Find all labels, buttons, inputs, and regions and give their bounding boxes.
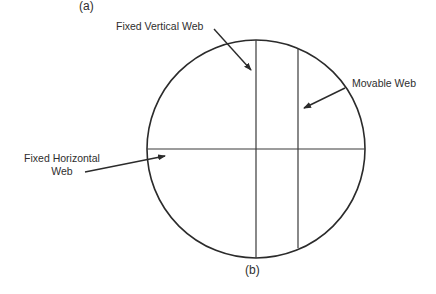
reticle-diagram (0, 0, 436, 294)
label-fixed-vertical-web: Fixed Vertical Web (116, 20, 203, 33)
label-movable-web: Movable Web (352, 77, 416, 90)
label-fixed-horizontal-web-line2: Web (16, 165, 108, 178)
movable-web-arrow (304, 88, 345, 108)
label-fixed-horizontal-web-line1: Fixed Horizontal (16, 152, 108, 165)
label-fixed-horizontal-web: Fixed Horizontal Web (16, 152, 108, 178)
caption-a: (a) (79, 0, 94, 13)
fixed-vertical-web-arrow (214, 29, 251, 70)
caption-b: (b) (245, 264, 260, 277)
